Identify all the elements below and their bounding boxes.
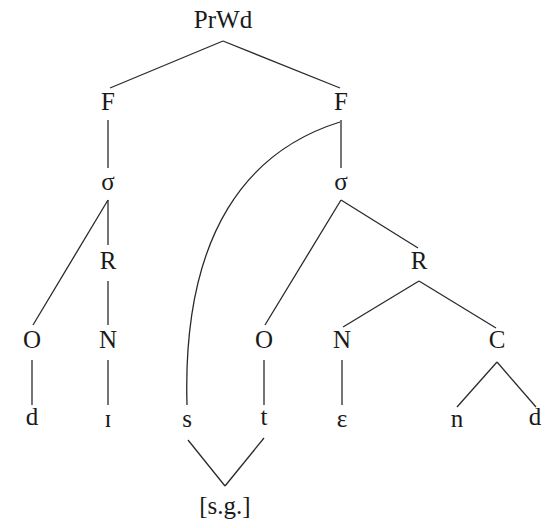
edge-seg-t-to-spread-glottis	[225, 438, 264, 486]
edge-r2-to-n2	[343, 281, 419, 327]
segment-seg-s: s	[182, 405, 192, 432]
edge-syl1-to-o1	[33, 200, 108, 325]
node-prwd: PrWd	[194, 6, 253, 33]
segment-seg-d2: d	[529, 403, 542, 430]
edge-seg-s-to-spread-glottis	[188, 440, 225, 486]
segment-seg-e: ɛ	[337, 405, 348, 432]
node-r1: R	[100, 247, 117, 274]
segment-row: dɪstɛnd	[26, 403, 542, 432]
segment-seg-d1: d	[26, 403, 39, 430]
edge-c1-to-seg-n	[457, 362, 497, 407]
node-r2: R	[411, 247, 428, 274]
segment-seg-t: t	[261, 403, 268, 430]
edge-syl2-to-o2	[265, 200, 341, 325]
node-f1: F	[101, 88, 115, 115]
edge-prwd-to-f1	[110, 41, 223, 88]
edge-r2-to-c1	[419, 281, 496, 328]
edge-prwd-to-f2	[223, 41, 340, 88]
node-n2: N	[333, 326, 351, 353]
node-n1: N	[99, 326, 117, 353]
segment-seg-n: n	[451, 405, 464, 432]
segment-seg-i: ɪ	[105, 405, 112, 432]
edge-syl2-to-r2	[341, 200, 418, 248]
node-c1: C	[489, 326, 506, 353]
node-o2: O	[255, 326, 273, 353]
node-f2: F	[334, 88, 348, 115]
spread-glottis-feature-label: [s.g.]	[199, 492, 250, 519]
node-o1: O	[23, 326, 41, 353]
node-syl1: σ	[101, 168, 115, 195]
prosodic-hierarchy-tree: PrWdFFσσRRONONC dɪstɛnd [s.g.]	[0, 0, 557, 528]
node-syl2: σ	[334, 168, 348, 195]
edge-c1-to-seg-d2	[497, 362, 536, 407]
